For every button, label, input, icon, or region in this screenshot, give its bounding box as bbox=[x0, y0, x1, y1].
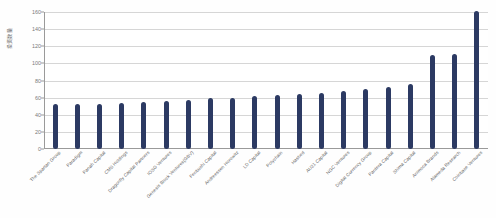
x-tick-label-wrap: Genesis Block Ventures(GBV) bbox=[146, 150, 195, 199]
x-tick-label-wrap: Polychain bbox=[265, 150, 283, 168]
bar bbox=[53, 104, 58, 149]
x-tick-label-wrap: The Spartan Group bbox=[29, 150, 62, 183]
x-tick-label: The Spartan Group bbox=[29, 150, 62, 183]
bar bbox=[275, 95, 280, 149]
x-tick-label: AU21 Capital bbox=[305, 150, 329, 174]
bar bbox=[297, 94, 302, 149]
y-tick-label: 100 bbox=[6, 60, 44, 66]
x-tick-label-wrap: LD Capital bbox=[242, 150, 261, 169]
bar bbox=[208, 98, 213, 149]
bar bbox=[363, 89, 368, 149]
bars-container bbox=[44, 12, 488, 149]
bar bbox=[164, 101, 169, 149]
y-tick-label: 0 bbox=[6, 146, 44, 152]
x-tick-label: Hashed bbox=[291, 150, 306, 165]
y-tick-label: 20 bbox=[6, 129, 44, 135]
bar bbox=[230, 98, 235, 149]
bar bbox=[408, 84, 413, 149]
bar bbox=[119, 103, 124, 149]
bar bbox=[386, 87, 391, 150]
bar bbox=[186, 100, 191, 149]
x-tick-label: Genesis Block Ventures(GBV) bbox=[146, 150, 195, 199]
x-tick-label-wrap: Dragonfly Capital Partners bbox=[107, 150, 150, 193]
bar bbox=[97, 104, 102, 149]
y-tick-label: 60 bbox=[6, 95, 44, 101]
bar bbox=[430, 55, 435, 149]
bar bbox=[75, 104, 80, 149]
x-tick-label: Polychain bbox=[265, 150, 283, 168]
bar bbox=[252, 96, 257, 149]
bar bbox=[319, 93, 324, 150]
y-axis-ticks: 020406080100120140160 bbox=[0, 12, 44, 149]
x-tick-label-wrap: AU21 Capital bbox=[305, 150, 329, 174]
y-tick-label: 160 bbox=[6, 9, 44, 15]
y-tick-label: 80 bbox=[6, 78, 44, 84]
y-tick-label: 40 bbox=[6, 112, 44, 118]
x-tick-label: Paradigm bbox=[66, 150, 84, 168]
bar-chart: 投资数量 020406080100120140160 The Spartan G… bbox=[0, 0, 496, 218]
y-tick-label: 140 bbox=[6, 26, 44, 32]
x-tick-label-wrap: Paradigm bbox=[66, 150, 84, 168]
bar bbox=[474, 11, 479, 149]
x-tick-label-wrap: Hashed bbox=[291, 150, 306, 165]
x-axis-labels: The Spartan GroupParadigmPanah CapitalCM… bbox=[44, 150, 488, 216]
x-tick-label: Dragonfly Capital Partners bbox=[107, 150, 150, 193]
x-tick-label: LD Capital bbox=[242, 150, 261, 169]
bar bbox=[341, 91, 346, 149]
bar bbox=[452, 54, 457, 149]
bar bbox=[141, 102, 146, 149]
y-tick-label: 120 bbox=[6, 43, 44, 49]
